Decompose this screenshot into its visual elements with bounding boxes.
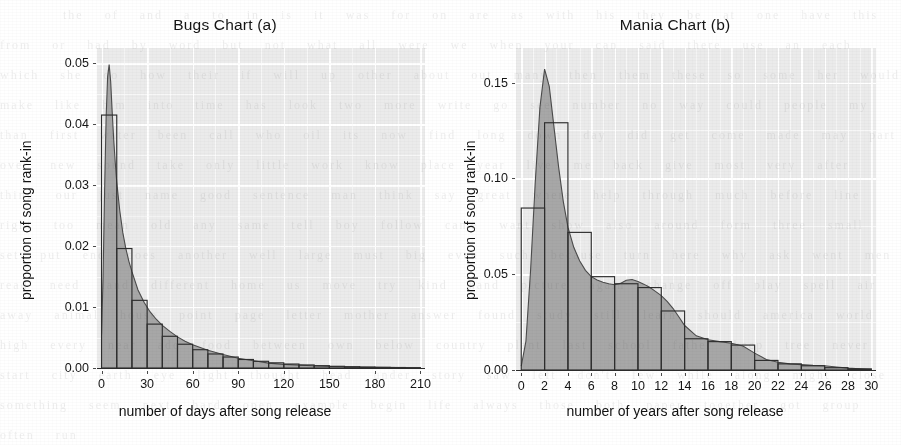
x-axis-baseline — [516, 370, 876, 371]
y-tick-label: 0.02 — [65, 239, 89, 253]
y-tick-label: 0.05 — [65, 56, 89, 70]
x-tick-label: 8 — [611, 379, 618, 393]
x-tick-mark — [568, 373, 569, 376]
x-tick-label: 24 — [794, 379, 808, 393]
y-tick-mark — [93, 185, 96, 186]
y-tick-mark — [93, 63, 96, 64]
x-axis-title-mania: number of years after song release — [450, 403, 900, 419]
y-axis-title-mania: proportion of song rank-in — [462, 140, 478, 300]
x-tick-label: 10 — [631, 379, 645, 393]
x-tick-mark — [545, 373, 546, 376]
x-tick-label: 2 — [541, 379, 548, 393]
panel-bugs-chart: Bugs Chart (a) number of days after song… — [0, 0, 450, 445]
x-tick-mark — [801, 373, 802, 376]
x-tick-mark — [102, 371, 103, 374]
y-tick-label: 0.00 — [484, 363, 508, 377]
density-area — [521, 69, 871, 370]
x-tick-label: 26 — [818, 379, 832, 393]
x-tick-mark — [731, 373, 732, 376]
x-tick-mark — [284, 371, 285, 374]
x-tick-label: 180 — [364, 377, 385, 391]
x-tick-mark — [521, 373, 522, 376]
x-tick-label: 20 — [748, 379, 762, 393]
x-tick-mark — [685, 373, 686, 376]
y-tick-mark — [512, 370, 515, 371]
y-tick-mark — [93, 124, 96, 125]
x-tick-label: 16 — [701, 379, 715, 393]
x-tick-mark — [638, 373, 639, 376]
x-tick-mark — [193, 371, 194, 374]
x-tick-label: 210 — [410, 377, 431, 391]
x-tick-mark — [420, 371, 421, 374]
x-tick-mark — [375, 371, 376, 374]
x-tick-mark — [615, 373, 616, 376]
y-tick-label: 0.01 — [65, 300, 89, 314]
x-axis-title-bugs: number of days after song release — [0, 403, 450, 419]
x-tick-label: 6 — [588, 379, 595, 393]
x-tick-mark — [661, 373, 662, 376]
series-layer — [516, 48, 876, 370]
x-axis-baseline — [97, 368, 425, 369]
figure-two-panel-histograms: Bugs Chart (a) number of days after song… — [0, 0, 901, 445]
y-tick-mark — [512, 274, 515, 275]
y-tick-label: 0.15 — [484, 76, 508, 90]
chart-title-mania: Mania Chart (b) — [450, 16, 900, 34]
x-tick-label: 90 — [231, 377, 245, 391]
x-tick-mark — [848, 373, 849, 376]
y-tick-mark — [512, 83, 515, 84]
y-axis-title-bugs: proportion of song rank-in — [18, 140, 34, 300]
x-tick-label: 18 — [724, 379, 738, 393]
x-tick-mark — [591, 373, 592, 376]
y-tick-label: 0.10 — [484, 171, 508, 185]
x-tick-label: 120 — [273, 377, 294, 391]
x-tick-label: 14 — [678, 379, 692, 393]
x-tick-mark — [238, 371, 239, 374]
y-tick-label: 0.05 — [484, 267, 508, 281]
x-tick-mark — [329, 371, 330, 374]
x-tick-label: 30 — [864, 379, 878, 393]
x-tick-mark — [755, 373, 756, 376]
x-tick-label: 150 — [319, 377, 340, 391]
plot-area-bugs — [97, 48, 425, 368]
chart-title-bugs: Bugs Chart (a) — [0, 16, 450, 34]
x-tick-label: 0 — [518, 379, 525, 393]
series-layer — [97, 48, 425, 368]
x-tick-mark — [147, 371, 148, 374]
y-tick-mark — [93, 246, 96, 247]
x-tick-mark — [871, 373, 872, 376]
x-tick-label: 28 — [841, 379, 855, 393]
panel-mania-chart: Mania Chart (b) number of years after so… — [450, 0, 900, 445]
x-tick-label: 0 — [98, 377, 105, 391]
density-area — [102, 64, 421, 368]
x-tick-label: 22 — [771, 379, 785, 393]
y-tick-mark — [93, 368, 96, 369]
y-tick-mark — [93, 307, 96, 308]
x-tick-mark — [778, 373, 779, 376]
x-tick-label: 4 — [564, 379, 571, 393]
x-tick-label: 60 — [186, 377, 200, 391]
y-tick-label: 0.03 — [65, 178, 89, 192]
y-tick-mark — [512, 178, 515, 179]
x-tick-label: 30 — [140, 377, 154, 391]
x-tick-mark — [708, 373, 709, 376]
x-tick-label: 12 — [654, 379, 668, 393]
y-tick-label: 0.04 — [65, 117, 89, 131]
y-tick-label: 0.00 — [65, 361, 89, 375]
plot-area-mania — [516, 48, 876, 370]
x-tick-mark — [825, 373, 826, 376]
